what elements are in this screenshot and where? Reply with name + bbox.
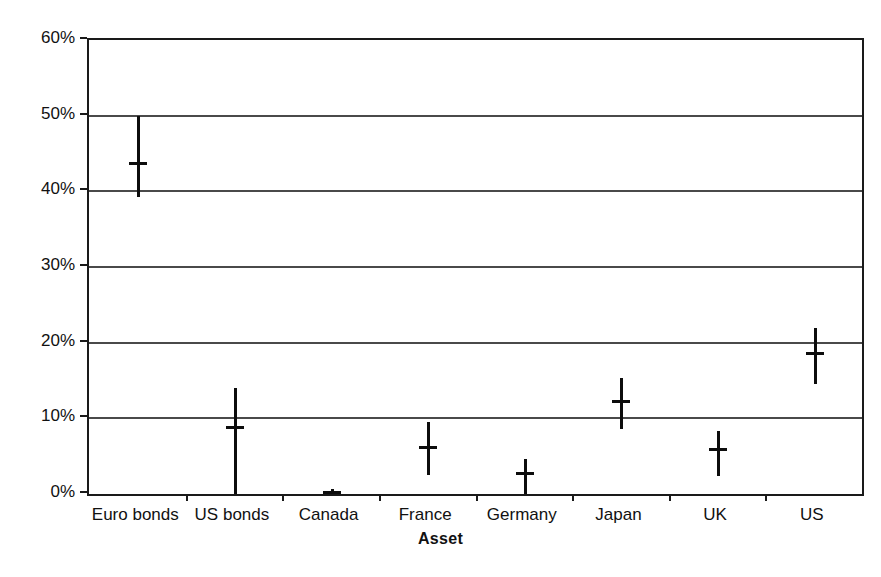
marker-mean-tick (612, 400, 630, 403)
x-axis-tick-mark (765, 494, 767, 501)
marker-range-bar (137, 116, 140, 198)
gridline (89, 342, 862, 344)
marker-range-bar (814, 328, 817, 385)
x-axis-category-label: US bonds (184, 506, 281, 523)
y-axis-tick-label: 0% (5, 483, 75, 500)
y-axis-tick-label: 10% (5, 407, 75, 424)
y-axis-tick-mark (80, 37, 87, 39)
y-axis-tick-mark (80, 491, 87, 493)
y-axis-tick-label: 50% (5, 105, 75, 122)
marker-mean-tick (806, 352, 824, 355)
x-axis-category-label: Euro bonds (87, 506, 184, 523)
y-axis-tick-label: 20% (5, 332, 75, 349)
marker-mean-tick (419, 446, 437, 449)
x-axis-category-label: US (763, 506, 860, 523)
marker-mean-tick (323, 491, 341, 494)
marker-range-bar (620, 378, 623, 429)
x-axis-category-label: France (377, 506, 474, 523)
x-axis-title: Asset (0, 530, 881, 548)
y-axis-tick-mark (80, 113, 87, 115)
gridline (89, 115, 862, 117)
y-axis-tick-mark (80, 264, 87, 266)
y-axis-tick-mark (80, 340, 87, 342)
y-axis-tick-mark (80, 188, 87, 190)
x-axis-tick-mark (186, 494, 188, 501)
x-axis-tick-mark (572, 494, 574, 501)
x-axis-category-label: Canada (280, 506, 377, 523)
y-axis-tick-label: 60% (5, 29, 75, 46)
chart-container: Weight 0%10%20%30%40%50%60% Euro bondsUS… (0, 0, 881, 577)
x-axis-category-label: UK (667, 506, 764, 523)
marker-range-bar (717, 431, 720, 476)
marker-mean-tick (516, 472, 534, 475)
marker-mean-tick (709, 448, 727, 451)
y-axis-tick-mark (80, 415, 87, 417)
plot-area (87, 38, 864, 496)
y-axis-tick-label: 30% (5, 256, 75, 273)
x-axis-tick-mark (379, 494, 381, 501)
marker-range-bar (234, 388, 237, 494)
x-axis-category-label: Germany (474, 506, 571, 523)
y-axis-tick-label: 40% (5, 180, 75, 197)
x-axis-tick-mark (669, 494, 671, 501)
x-axis-category-label: Japan (570, 506, 667, 523)
marker-range-bar (524, 459, 527, 494)
gridline (89, 417, 862, 419)
marker-mean-tick (226, 426, 244, 429)
x-axis-tick-mark (282, 494, 284, 501)
x-axis-tick-mark (476, 494, 478, 501)
gridline (89, 190, 862, 192)
gridline (89, 266, 862, 268)
marker-mean-tick (129, 162, 147, 165)
